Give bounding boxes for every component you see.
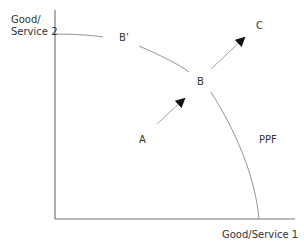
y-axis-label: Good/ Service 2	[11, 14, 58, 38]
point-b-prime-label: B’	[119, 32, 129, 44]
ppf-curve	[211, 92, 259, 219]
ppf-curve-label: PPF	[259, 134, 277, 146]
y-axis-label-line1: Good/	[11, 14, 58, 26]
arrow-a-to-b	[157, 99, 184, 124]
x-axis-label: Good/Service 1	[222, 229, 298, 241]
ppf-curve	[55, 34, 103, 37]
arrow-b-to-c	[211, 38, 244, 69]
ppf-curve	[139, 46, 189, 72]
y-axis-label-line2: Service 2	[11, 26, 58, 38]
point-b-label: B	[197, 76, 204, 88]
point-c-label: C	[256, 20, 263, 32]
point-a-label: A	[139, 134, 146, 146]
